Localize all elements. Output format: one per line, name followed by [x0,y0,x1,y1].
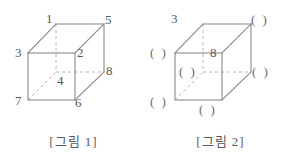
vertex-label-1: 1 [46,12,53,25]
figure-1-caption: [그림 1] [0,131,147,150]
vertex-label-4: 4 [57,74,64,87]
vertex-blank-hidden: ( ) [179,65,197,78]
vertex-label-8: 8 [106,64,113,77]
figure-2-caption: [그림 2] [147,131,294,150]
vertex-label-6: 6 [75,96,82,109]
vertex-blank-right-middle: ( ) [252,65,270,78]
figure-2-panel: 3 8 ( ) ( ) ( ) ( ) ( ) ( ) [그림 2] [147,0,294,167]
vertex-label-7: 7 [15,94,22,107]
cube-diagram-figure-2 [147,0,294,130]
figure-1-panel: 1 5 3 2 8 4 7 6 [그림 1] [0,0,147,167]
visible-edges [28,24,104,100]
vertex-label-5: 5 [105,13,112,26]
vertex-blank-bottom: ( ) [199,103,217,116]
vertex-label-8: 8 [210,46,217,59]
vertex-blank-top-right: ( ) [251,13,269,26]
vertex-blank-left-top: ( ) [150,46,168,59]
vertex-label-2: 2 [77,46,84,59]
visible-edges [175,24,251,100]
vertex-label-3: 3 [15,46,22,59]
cube-diagram-figure-1 [0,0,147,130]
vertex-blank-left-bottom: ( ) [150,95,168,108]
vertex-label-3: 3 [171,12,178,25]
